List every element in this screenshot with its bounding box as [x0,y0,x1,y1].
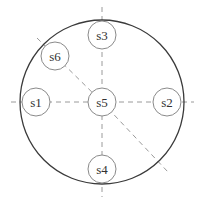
node-label: s5 [96,95,108,110]
node-label: s6 [49,49,61,64]
node-layout-diagram: s1s2s3s4s5s6 [0,0,201,205]
node-label: s1 [30,95,42,110]
node-s4: s4 [88,155,116,183]
diagram-canvas: s1s2s3s4s5s6 [0,0,201,205]
node-s2: s2 [153,88,181,116]
nodes: s1s2s3s4s5s6 [22,21,181,183]
node-label: s3 [96,28,108,43]
node-label: s4 [96,162,108,177]
node-label: s2 [161,95,173,110]
node-s1: s1 [22,88,50,116]
node-s3: s3 [88,21,116,49]
node-s5: s5 [88,88,116,116]
node-s6: s6 [41,42,69,70]
